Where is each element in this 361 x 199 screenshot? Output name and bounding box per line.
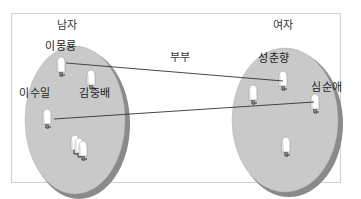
group-label-women: 여자 xyxy=(273,20,294,31)
name-leemongryong: 이몽룡 xyxy=(45,41,77,52)
diagram-canvas xyxy=(0,0,361,199)
name-seongchunhyang: 성춘향 xyxy=(258,53,290,64)
men-set xyxy=(25,46,130,199)
relationship-label: 부부 xyxy=(170,52,191,63)
name-simsunae: 심순애 xyxy=(311,82,343,93)
women-set xyxy=(232,48,343,197)
men-set-ellipse xyxy=(25,46,125,194)
relationship-diagram: 남자 여자 부부 이몽룡 김중배 이수일 성춘향 심순애 xyxy=(0,0,361,199)
group-label-men: 남자 xyxy=(57,20,78,31)
name-leesuil: 이수일 xyxy=(19,88,51,99)
name-kimjungbae: 김중배 xyxy=(79,88,111,99)
women-set-ellipse xyxy=(232,48,338,192)
